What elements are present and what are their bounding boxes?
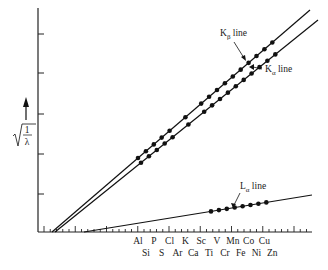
svg-text:Ar: Ar <box>172 248 183 258</box>
svg-text:Zn: Zn <box>267 248 278 258</box>
x-element-labels-row2: SiSArCaTiCrFeNiZn <box>142 248 278 258</box>
svg-text:Cu: Cu <box>259 236 270 246</box>
x-ticks <box>44 226 307 232</box>
svg-text:Al: Al <box>133 236 143 246</box>
svg-text:Ca: Ca <box>188 248 199 258</box>
k-beta-label: Kβ line <box>220 28 247 61</box>
svg-text:Co: Co <box>243 236 254 246</box>
svg-text:P: P <box>151 236 156 246</box>
svg-text:Cr: Cr <box>220 248 230 258</box>
svg-text:Fe: Fe <box>236 248 246 258</box>
svg-text:Si: Si <box>142 248 150 258</box>
y-ticks <box>38 34 44 194</box>
svg-text:Kα line: Kα line <box>265 64 292 77</box>
svg-text:K: K <box>182 236 189 246</box>
svg-text:V: V <box>214 236 221 246</box>
svg-text:Ni: Ni <box>252 248 262 258</box>
x-element-labels-row1: AlPClKScVMnCoCu <box>133 236 270 246</box>
l-alpha-line <box>84 195 312 232</box>
svg-text:S: S <box>159 248 164 258</box>
svg-text:Ti: Ti <box>205 248 213 258</box>
svg-text:Sc: Sc <box>196 236 206 246</box>
svg-text:Cl: Cl <box>165 236 174 246</box>
svg-text:Mn: Mn <box>226 236 239 246</box>
svg-text:Lα line: Lα line <box>240 181 266 194</box>
svg-text:Kβ line: Kβ line <box>220 28 247 41</box>
svg-text:λ: λ <box>25 137 30 147</box>
y-axis-label: 1 λ <box>13 97 36 147</box>
moseley-plot: 1 λ Kβ line Kα line Lα line AlPClKScVMnC… <box>0 0 328 270</box>
svg-text:1: 1 <box>25 125 30 135</box>
